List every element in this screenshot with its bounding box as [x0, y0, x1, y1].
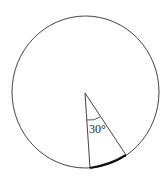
angle-arc-marker	[87, 117, 100, 120]
circle	[12, 16, 159, 168]
highlighted-arc	[90, 155, 126, 168]
angle-label: 30°	[89, 122, 106, 136]
circle-diagram: 30°	[0, 0, 167, 180]
